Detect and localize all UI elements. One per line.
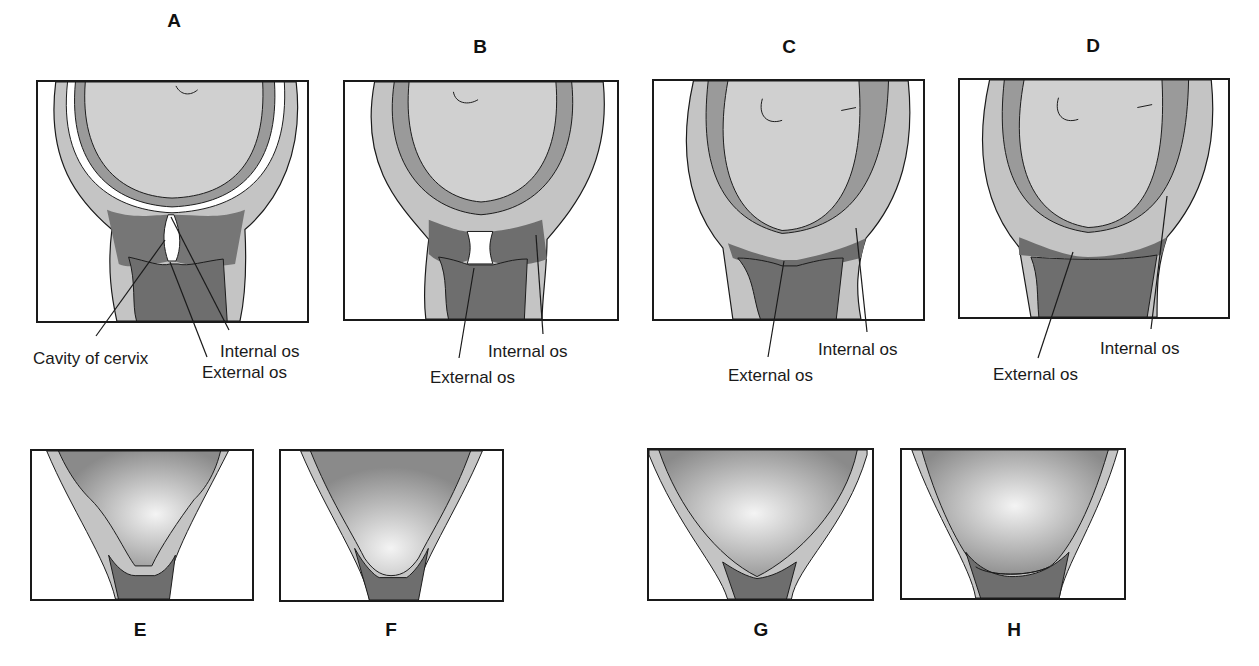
panel-letter-e: E (120, 619, 160, 641)
label-external-os-b: External os (430, 368, 515, 388)
panel-letter-c: C (769, 36, 809, 58)
label-internal-os-a: Internal os (220, 342, 299, 362)
panel-e-illustration (30, 449, 254, 601)
label-internal-os-c: Internal os (818, 340, 897, 360)
panel-letter-b: B (460, 36, 500, 58)
panel-letter-d: D (1073, 35, 1113, 57)
panel-a-illustration (36, 80, 309, 323)
panel-letter-g: G (741, 619, 781, 641)
panel-d-illustration (958, 78, 1230, 319)
label-internal-os-b: Internal os (488, 342, 567, 362)
panel-letter-f: F (371, 619, 411, 641)
panel-letter-a: A (154, 10, 194, 32)
panel-b-illustration (343, 80, 619, 321)
panel-letter-h: H (994, 619, 1034, 641)
panel-h-illustration (900, 448, 1126, 600)
label-external-os-a: External os (202, 363, 287, 383)
panel-f-illustration (279, 449, 504, 602)
label-internal-os-d: Internal os (1100, 339, 1179, 359)
panel-c-illustration (652, 79, 925, 321)
label-external-os-d: External os (993, 365, 1078, 385)
label-cavity-of-cervix-a: Cavity of cervix (33, 349, 148, 369)
panel-g-illustration (647, 448, 874, 601)
label-external-os-c: External os (728, 366, 813, 386)
